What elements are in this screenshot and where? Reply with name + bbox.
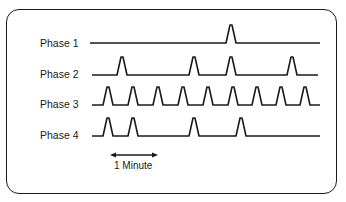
scale-label: 1 Minute xyxy=(114,161,152,171)
pulse-waveforms xyxy=(0,0,346,202)
phase-4-waveform xyxy=(92,118,320,136)
scale-arrow-icon xyxy=(110,153,158,158)
phase-1-waveform xyxy=(90,25,320,43)
diagram-stage: Phase 1 Phase 2 Phase 3 Phase 4 1 Minute xyxy=(0,0,346,202)
phase-3-waveform xyxy=(92,87,320,105)
phase-2-waveform xyxy=(92,57,318,75)
